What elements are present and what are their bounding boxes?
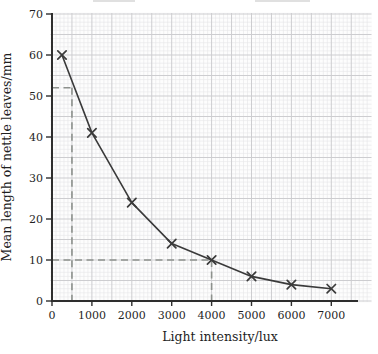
line-chart: 01000200030004000500060007000 0102030405… xyxy=(0,0,378,354)
x-tick-label: 1000 xyxy=(78,309,106,322)
y-tick-label: 20 xyxy=(29,213,43,226)
x-tick-label: 7000 xyxy=(317,309,345,322)
x-tick-label: 4000 xyxy=(198,309,226,322)
y-axis-title: Mean length of nettle leaves/mm xyxy=(0,52,14,261)
y-tick-label: 30 xyxy=(29,172,43,185)
x-tick-labels: 01000200030004000500060007000 xyxy=(49,309,346,322)
x-tick-label: 6000 xyxy=(277,309,305,322)
x-axis-title: Light intensity/lux xyxy=(162,329,278,344)
y-tick-label: 10 xyxy=(29,254,43,267)
cropped-text-artifact xyxy=(93,0,135,2)
cropped-text-artifact xyxy=(255,0,310,2)
nettle-leaves-light-intensity-figure: 01000200030004000500060007000 0102030405… xyxy=(0,0,378,354)
y-tick-label: 60 xyxy=(29,49,43,62)
y-tick-label: 70 xyxy=(29,8,43,21)
y-tick-label: 40 xyxy=(29,131,43,144)
x-tick-label: 3000 xyxy=(158,309,186,322)
y-tick-label: 50 xyxy=(29,90,43,103)
y-tick-label: 0 xyxy=(36,295,43,308)
x-tick-label: 5000 xyxy=(238,309,266,322)
x-tick-label: 0 xyxy=(49,309,56,322)
y-tick-labels: 010203040506070 xyxy=(29,8,43,308)
x-tick-label: 2000 xyxy=(118,309,146,322)
